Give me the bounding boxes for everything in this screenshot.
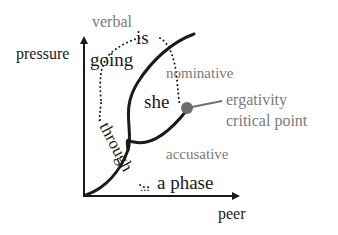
word-a-phase: a phase: [157, 173, 213, 192]
axis-label-peer: peer: [218, 206, 246, 222]
word-through: through: [95, 119, 137, 175]
region-label-verbal: verbal: [92, 14, 132, 30]
axis-label-pressure: pressure: [16, 46, 69, 62]
dots-after-through: ...: [140, 179, 150, 194]
region-label-accusative: accusative: [166, 147, 228, 162]
word-going: going: [90, 50, 133, 69]
critical-point-marker: [181, 102, 193, 114]
word-is: is: [136, 28, 149, 47]
phase-boundary-curve-lower: [127, 110, 187, 150]
word-she: she: [144, 92, 169, 111]
critical-point-leader: [192, 101, 222, 107]
region-label-nominative: nominative: [166, 66, 234, 81]
annotation-ergativity: ergativity: [226, 92, 287, 108]
annotation-critical-point: critical point: [226, 113, 307, 129]
